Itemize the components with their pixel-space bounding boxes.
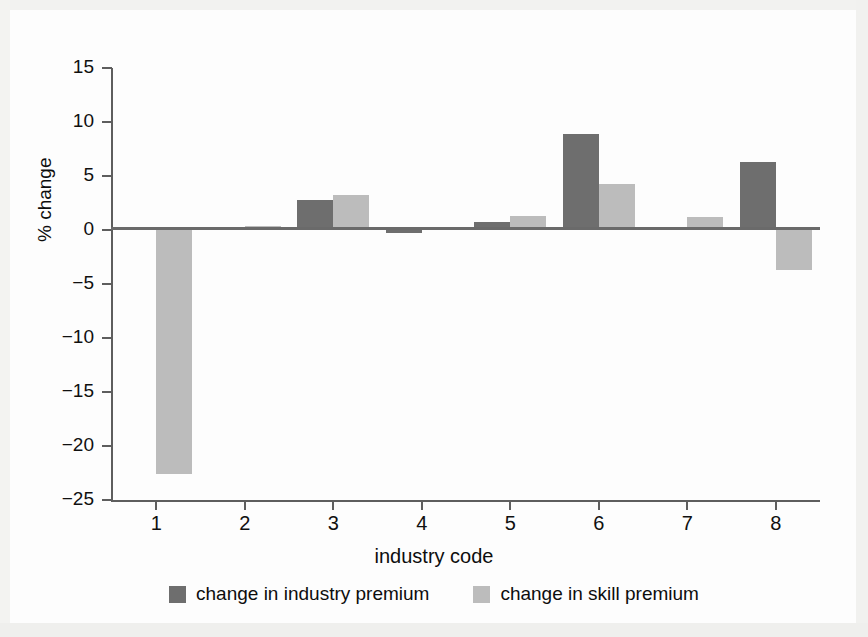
y-tick: −5 [102,283,112,285]
bar-industry-premium-3 [297,200,333,230]
legend-label-skill-premium: change in skill premium [500,583,699,605]
y-tick-label: −10 [62,326,94,348]
y-tick-mark [102,445,112,447]
page-edge-bottom [0,623,868,637]
page-edge-right [856,0,868,637]
x-tick-label: 6 [579,512,619,535]
x-tick-label: 4 [402,512,442,535]
x-tick-mark [421,501,423,510]
x-tick-mark [598,501,600,510]
x-tick-mark [332,501,334,510]
y-tick-label: −5 [72,272,94,294]
x-tick-mark [155,501,157,510]
y-tick-mark [102,175,112,177]
y-axis-spine [111,68,113,502]
legend-item-industry-premium[interactable]: change in industry premium [169,583,429,605]
y-tick-label: 10 [73,110,94,132]
y-tick: −25 [102,499,112,501]
y-tick-label: 15 [73,56,94,78]
y-tick-mark [102,499,112,501]
bar-industry-premium-6 [563,134,599,230]
legend-label-industry-premium: change in industry premium [196,583,429,605]
y-tick-mark [102,391,112,393]
chart-figure: 151050−5−10−15−20−25 12345678 % change i… [0,0,868,637]
y-tick-mark [102,337,112,339]
y-tick-mark [102,283,112,285]
y-tick: 15 [102,67,112,69]
bar-skill-premium-3 [333,195,369,230]
page-edge-top [0,0,868,10]
y-tick: 5 [102,175,112,177]
y-tick-label: −25 [62,488,94,510]
x-tick-label: 3 [313,512,353,535]
x-tick-label: 1 [136,512,176,535]
x-tick-label: 5 [490,512,530,535]
y-tick-mark [102,121,112,123]
y-tick-label: 5 [83,164,94,186]
y-tick-label: −20 [62,434,94,456]
y-tick: −20 [102,445,112,447]
bar-skill-premium-6 [599,184,635,230]
page-edge-left [0,0,10,637]
y-tick-label: 0 [83,218,94,240]
x-tick-mark [686,501,688,510]
bar-skill-premium-1 [156,230,192,474]
zero-baseline [111,227,820,230]
y-tick: −15 [102,391,112,393]
legend-swatch-industry-premium [169,586,186,603]
x-tick-mark [509,501,511,510]
legend-swatch-skill-premium [473,586,490,603]
x-tick-label: 8 [756,512,796,535]
bar-skill-premium-8 [776,230,812,270]
x-tick-label: 7 [667,512,707,535]
y-tick-mark [102,67,112,69]
bar-industry-premium-8 [740,162,776,230]
x-axis-label: industry code [0,545,868,568]
y-tick: 10 [102,121,112,123]
x-tick-label: 2 [225,512,265,535]
y-axis-label: % change [34,157,56,242]
legend-item-skill-premium[interactable]: change in skill premium [473,583,699,605]
y-tick: −10 [102,337,112,339]
x-tick-mark [775,501,777,510]
y-tick-label: −15 [62,380,94,402]
chart-legend: change in industry premium change in ski… [0,583,868,605]
bar-industry-premium-4 [386,230,422,233]
x-tick-mark [244,501,246,510]
x-axis-spine [111,500,820,502]
